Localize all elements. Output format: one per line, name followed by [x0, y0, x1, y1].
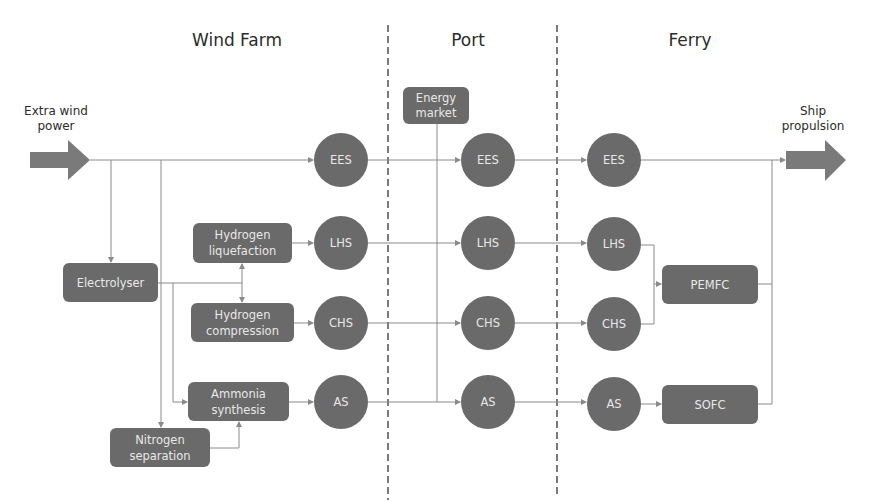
connector-layer	[0, 0, 875, 501]
hydrogen-compression-label-2: compression	[206, 323, 279, 339]
sofc-box: SOFC	[662, 385, 758, 424]
port-lhs-node: LHS	[461, 216, 515, 270]
hydrogen-liquefaction-box: Hydrogen liquefaction	[193, 223, 292, 263]
output-label-line2: propulsion	[782, 119, 845, 134]
ammonia-synthesis-label-2: synthesis	[211, 402, 265, 418]
hydrogen-liquefaction-label-1: Hydrogen	[215, 227, 271, 243]
ferry-as-node: AS	[587, 377, 641, 431]
windfarm-ees-node: EES	[314, 133, 368, 187]
energy-market-box: Energy market	[403, 87, 469, 124]
ferry-chs-node: CHS	[587, 297, 641, 351]
propulsion-output-arrow	[786, 140, 846, 181]
energy-market-label-1: Energy	[416, 91, 456, 106]
windfarm-lhs-node: LHS	[314, 216, 368, 270]
section-heading-wind-farm: Wind Farm	[192, 30, 282, 50]
ammonia-synthesis-box: Ammonia synthesis	[188, 382, 289, 421]
hydrogen-liquefaction-label-2: liquefaction	[209, 243, 277, 259]
input-label-line2: power	[24, 119, 88, 134]
electrolyser-label: Electrolyser	[77, 275, 145, 291]
ammonia-synthesis-label-1: Ammonia	[211, 386, 266, 402]
section-heading-ferry: Ferry	[668, 30, 711, 50]
pemfc-box: PEMFC	[662, 265, 758, 304]
nitrogen-separation-label-2: separation	[129, 448, 190, 464]
hydrogen-compression-box: Hydrogen compression	[191, 303, 294, 342]
port-ees-node: EES	[461, 133, 515, 187]
nitrogen-separation-box: Nitrogen separation	[110, 428, 210, 467]
input-label: Extra wind power	[24, 104, 88, 134]
ferry-lhs-node: LHS	[587, 217, 641, 271]
output-label-line1: Ship	[782, 104, 845, 119]
port-chs-node: CHS	[461, 296, 515, 350]
hydrogen-compression-label-1: Hydrogen	[215, 307, 271, 323]
nitrogen-separation-label-1: Nitrogen	[135, 432, 184, 448]
input-label-line1: Extra wind	[24, 104, 88, 119]
energy-market-label-2: market	[416, 106, 457, 121]
output-label: Ship propulsion	[782, 104, 845, 134]
windfarm-as-node: AS	[314, 375, 368, 429]
ferry-ees-node: EES	[587, 133, 641, 187]
windfarm-chs-node: CHS	[314, 296, 368, 350]
section-heading-port: Port	[451, 30, 485, 50]
wind-input-arrow	[30, 140, 90, 180]
electrolyser-box: Electrolyser	[63, 263, 158, 302]
pemfc-label: PEMFC	[691, 277, 730, 293]
port-as-node: AS	[461, 375, 515, 429]
sofc-label: SOFC	[695, 397, 726, 413]
